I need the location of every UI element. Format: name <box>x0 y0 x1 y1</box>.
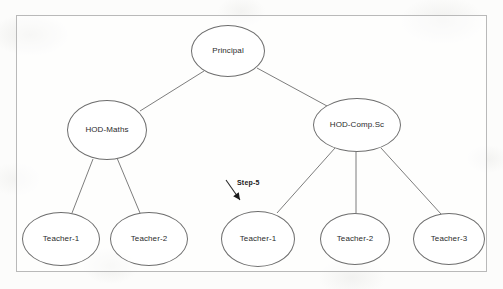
node-maths-teacher-2[interactable]: Teacher-2 <box>110 212 188 266</box>
node-principal[interactable]: Principal <box>191 25 265 77</box>
node-comp-teacher-2[interactable]: Teacher-2 <box>320 213 390 265</box>
node-label-hod-comp-sc: HOD-Comp.Sc <box>330 121 384 129</box>
step5-annotation-label: Step-5 <box>237 179 260 186</box>
node-hod-maths[interactable]: HOD-Maths <box>67 100 147 160</box>
node-hod-comp-sc[interactable]: HOD-Comp.Sc <box>313 98 401 152</box>
node-label-comp-teacher-3: Teacher-3 <box>431 235 467 243</box>
diagram-canvas: PrincipalHOD-MathsHOD-Comp.ScTeacher-1Te… <box>0 0 503 289</box>
node-label-comp-teacher-2: Teacher-2 <box>337 235 373 243</box>
node-maths-teacher-1[interactable]: Teacher-1 <box>22 212 100 266</box>
node-label-hod-maths: HOD-Maths <box>85 126 128 134</box>
node-comp-teacher-1[interactable]: Teacher-1 <box>221 211 295 267</box>
node-label-maths-teacher-1: Teacher-1 <box>43 235 79 243</box>
node-label-maths-teacher-2: Teacher-2 <box>131 235 167 243</box>
node-label-comp-teacher-1: Teacher-1 <box>240 235 276 243</box>
node-comp-teacher-3[interactable]: Teacher-3 <box>413 213 485 265</box>
node-label-principal: Principal <box>212 47 244 55</box>
